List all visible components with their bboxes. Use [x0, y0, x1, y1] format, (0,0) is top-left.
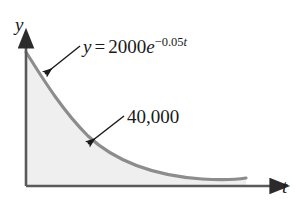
equation-coefficient: 2000 — [108, 36, 146, 57]
y-axis-label: y — [13, 14, 24, 35]
area-pointer-arrow — [88, 116, 124, 144]
equation-exponent-number: 0.05 — [162, 35, 184, 49]
exponential-decay-figure: y t y=2000e−0.05t 40,000 — [0, 0, 297, 216]
equation-exponent-minus: − — [155, 35, 162, 49]
equation-exponent-variable: t — [184, 35, 187, 49]
equation-equals-sign: = — [91, 36, 108, 57]
equation-exponent: −0.05t — [155, 35, 188, 49]
equation-pointer-arrow — [45, 46, 80, 74]
equation-exponential-base: e — [146, 36, 154, 57]
equation-label: y=2000e−0.05t — [83, 37, 187, 56]
t-axis-label: t — [282, 176, 288, 197]
area-value-label: 40,000 — [127, 107, 179, 126]
